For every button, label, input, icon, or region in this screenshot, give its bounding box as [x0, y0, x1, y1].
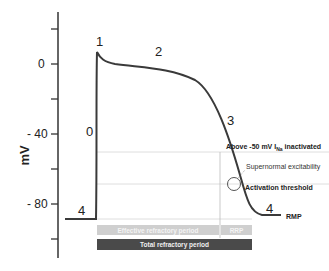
na-inactivated-annotation: Above -50 mV INa inactivated: [226, 143, 321, 152]
phase-4-left-label: 4: [78, 203, 85, 218]
y-tick-minus-80: - 80: [27, 197, 48, 211]
phase-1-label: 1: [96, 34, 103, 49]
activation-threshold-label: Activation threshold: [245, 184, 313, 191]
y-axis-label: mV: [17, 145, 32, 165]
phase-0-label: 0: [86, 124, 93, 139]
y-tick-minus-40: - 40: [27, 127, 48, 141]
phase-3-label: 3: [227, 113, 234, 128]
supernormal-excitability-label: Supernormal excitability: [246, 163, 320, 170]
effective-refractory-period-bar: Effective refractory period: [97, 225, 219, 235]
relative-refractory-period-bar: RRP: [221, 225, 252, 235]
y-tick-0: 0: [38, 57, 45, 71]
action-potential-curve: [65, 52, 281, 219]
rmp-label: RMP: [286, 213, 302, 220]
total-refractory-period-bar: Total refractory period: [97, 239, 252, 250]
phase-4-right-label: 4: [266, 201, 273, 216]
phase-2-label: 2: [155, 44, 162, 59]
